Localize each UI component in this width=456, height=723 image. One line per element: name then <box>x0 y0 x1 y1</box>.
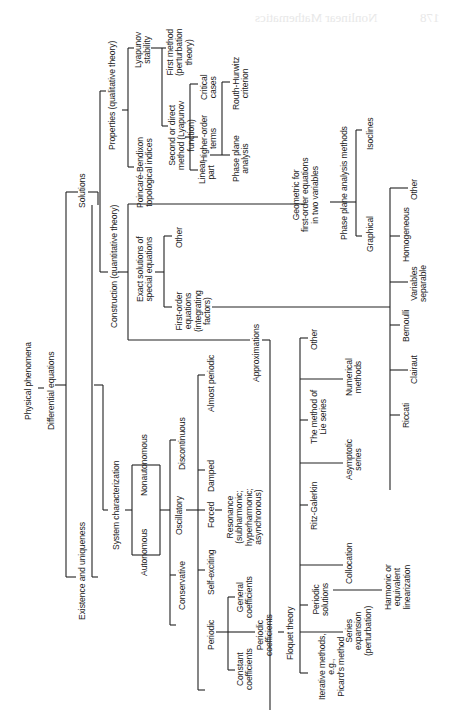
node-oscillatory: Oscillatory <box>175 496 184 535</box>
node-graphical: Graphical <box>366 216 375 252</box>
node-isoclines: Isoclines <box>366 117 375 150</box>
node-system-characterization: System characterization <box>112 461 121 550</box>
node-floquet-theory: Floquet theory <box>286 606 295 660</box>
node-periodic: Periodic <box>207 620 216 650</box>
node-linear-part: Linear part <box>198 161 217 184</box>
node-collocation: Collocation <box>345 543 354 584</box>
node-phase-plane-methods: Phase plane analysis methods <box>340 126 349 240</box>
node-lie-series: The method of Lie series <box>310 390 329 444</box>
tree-connectors <box>0 0 456 723</box>
node-exact-solutions: Exact solutions of special equations <box>136 236 155 302</box>
node-poincare-bendixon: Poincaré-Bendixon topological indices <box>136 137 155 208</box>
node-riccati: Riccati <box>402 403 411 428</box>
node-harmonic-linearization: Harmonic or equivalent linearization <box>384 564 412 610</box>
node-ritz-galerkin: Ritz-Galerkin <box>310 482 319 530</box>
node-first-method: First method (perturbation theory) <box>166 29 194 76</box>
node-routh-hurwitz: Routh-Hurwitz criterion <box>232 57 251 110</box>
node-almost-periodic: Almost periodic <box>207 355 216 412</box>
node-differential-equations: Differential equations <box>47 352 56 430</box>
node-discontinuous: Discontinuous <box>178 417 187 470</box>
node-bernoulli: Bernoulli <box>402 309 411 342</box>
node-critical-cases: Critical cases <box>200 75 219 100</box>
node-resonance: Resonance (subharmonic; hyperharmonic; a… <box>226 488 264 546</box>
node-lyapunov-stability: Lyapunov stability <box>134 32 153 68</box>
node-solutions: Solutions <box>78 174 87 208</box>
node-first-order-equations: First-order equations (integrating facto… <box>175 290 213 332</box>
node-asymptotic-series: Asymptotic series <box>345 439 364 480</box>
node-numerical-methods: Numerical methods <box>345 358 364 396</box>
node-self-exciting: Self-exciting <box>207 549 216 595</box>
node-clairaut: Clairaut <box>410 355 419 384</box>
node-existence-uniqueness: Existence and uniqueness <box>78 522 87 620</box>
node-autonomous: Autonomous <box>140 529 149 576</box>
node-exact-other: Other <box>175 227 184 248</box>
node-construction: Construction (quantitative theory) <box>110 205 119 328</box>
node-conservative: Conservative <box>178 561 187 610</box>
node-general-coefficients: General coefficients <box>236 576 255 618</box>
node-geometric: Geometric for first-order equations in t… <box>292 158 320 232</box>
node-phase-plane-analysis: Phase plane analysis <box>232 135 251 182</box>
node-approx-other: Other <box>310 329 319 350</box>
node-periodic-solutions: Periodic solutions <box>312 583 331 616</box>
node-damped: Damped <box>207 460 216 492</box>
node-physical-phenomena: Physical phenomena <box>24 342 33 420</box>
node-higher-order-terms: Higher-order terms <box>200 115 219 162</box>
node-properties: Properties (qualitative theory) <box>108 41 117 150</box>
node-second-method: Second or direct method (Lyapunov functi… <box>168 101 196 170</box>
book-page: Nonlinear Mathematics 178 <box>0 0 456 723</box>
node-series-expansion: Series expansion (perturbation) <box>345 606 373 656</box>
node-constant-coefficients: Constant coefficients <box>236 648 255 690</box>
node-fo-other: Other <box>410 179 419 200</box>
node-periodic-coefficients: Periodic coefficients <box>256 614 275 656</box>
node-approximations: Approximations <box>252 324 261 382</box>
node-iterative-methods: Iterative methods, e.g., Picard's method <box>318 633 346 700</box>
node-homogeneous: Homogeneous <box>402 207 411 262</box>
node-nonautonomous: Nonautonomous <box>140 434 149 496</box>
node-variables-separable: Variables separable <box>410 265 429 302</box>
node-forced: Forced <box>207 502 216 528</box>
